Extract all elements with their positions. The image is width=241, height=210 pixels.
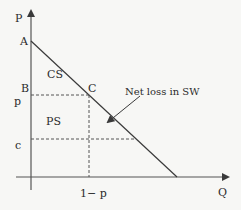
net-loss-annotation: Net loss in SW bbox=[125, 86, 200, 97]
producer-surplus-label: PS bbox=[46, 115, 61, 128]
point-a-label: A bbox=[19, 35, 29, 48]
surplus-diagram: P A B p c C CS PS Net loss in SW 1− p Q bbox=[0, 0, 241, 210]
y-axis-arrow-icon bbox=[27, 9, 35, 17]
x-axis-arrow-icon bbox=[222, 173, 230, 181]
y-axis-label: P bbox=[15, 12, 23, 25]
point-b-label: B bbox=[21, 82, 29, 95]
price-p-label: p bbox=[14, 95, 21, 108]
net-loss-arrow bbox=[108, 96, 140, 122]
consumer-surplus-label: CS bbox=[47, 68, 63, 81]
demand-line bbox=[31, 41, 177, 177]
quantity-label: 1− p bbox=[80, 187, 107, 200]
x-axis-label: Q bbox=[218, 186, 227, 199]
point-c-label: C bbox=[88, 82, 96, 95]
cost-c-label: c bbox=[15, 139, 21, 152]
